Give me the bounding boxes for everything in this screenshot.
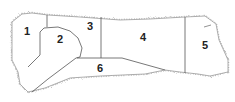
region-label-5: 5 bbox=[202, 40, 208, 51]
region-label-2: 2 bbox=[57, 34, 63, 45]
region-label-6: 6 bbox=[97, 63, 103, 74]
carcass-outline bbox=[12, 13, 228, 92]
region-label-4: 4 bbox=[140, 32, 146, 43]
region-label-3: 3 bbox=[87, 21, 93, 32]
region-label-1: 1 bbox=[24, 26, 30, 37]
meat-cut-diagram bbox=[0, 0, 235, 102]
